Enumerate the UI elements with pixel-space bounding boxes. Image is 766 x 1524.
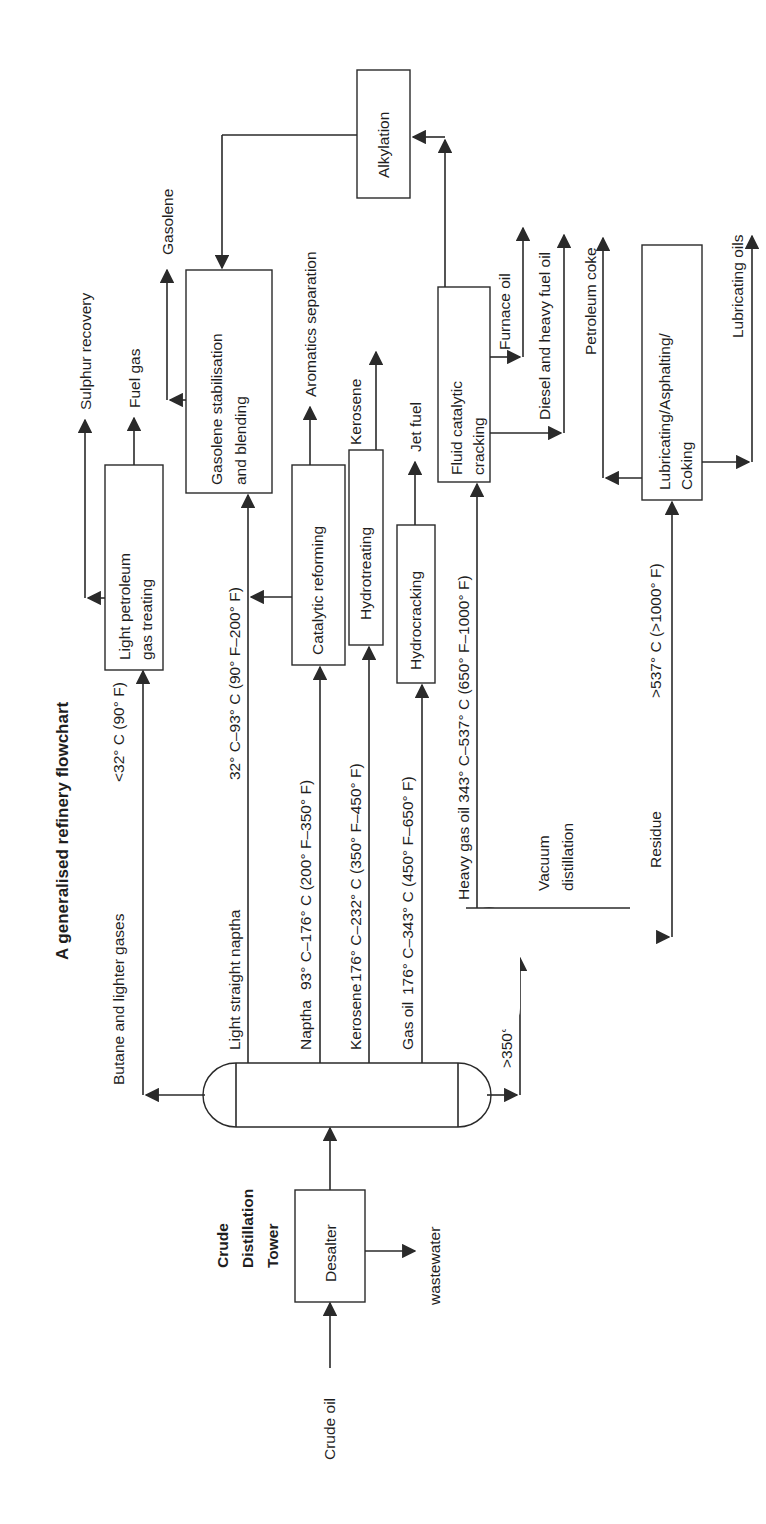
residue-label: Residue: [647, 811, 664, 868]
lpg-treating-label-2: gas treating: [138, 579, 155, 660]
crude-distillation-tower: [203, 1063, 491, 1127]
lpg-treating-label-1: Light petroleum: [116, 553, 133, 660]
hydrotreating-label: Hydrotreating: [357, 527, 374, 620]
fcc-label-2: cracking: [470, 417, 487, 475]
residue-temp-label: >537° C (>1000° F): [647, 563, 664, 698]
petroleum-coke-label: Petroleum coke: [582, 247, 599, 355]
vacuum-vessel: [465, 908, 513, 1010]
diesel-label: Diesel and heavy fuel oil: [536, 252, 553, 420]
catalytic-reforming-label: Catalytic reforming: [309, 526, 326, 655]
desalter-label: Desalter: [322, 1224, 339, 1282]
crude-tower-label-3: Tower: [264, 1224, 281, 1269]
butane-label: Butane and lighter gases: [110, 913, 127, 1085]
lubricating-oils-label: Lubricating oils: [729, 234, 746, 338]
fuel-gas-label: Fuel gas: [126, 348, 143, 408]
kerosene-stream-label: Kerosene: [347, 984, 364, 1050]
jet-fuel-label: Jet fuel: [407, 402, 424, 452]
fcc-label-1: Fluid catalytic: [448, 381, 465, 475]
alkylation-label: Alkylation: [375, 112, 392, 178]
gas-oil-temp-label: 176° C–343° C (450° F–650° F): [399, 776, 416, 995]
lubricating-label-1: Lubricating/Asphalting/: [656, 332, 673, 490]
crude-tower-label-2: Distillation: [239, 1189, 256, 1268]
gas-oil-label: Gas oil: [399, 1002, 416, 1050]
furnace-oil-label: Furnace oil: [496, 273, 513, 350]
crude-tower-label-1: Crude: [214, 1223, 231, 1268]
lubricating-label-2: Coking: [678, 442, 695, 490]
vacuum-distillation-label-2: distillation: [559, 823, 576, 891]
gasolene-stabilisation-label-1: Gasolene stabilisation: [208, 333, 225, 485]
butane-temp-label: <32° C (90° F): [110, 682, 127, 782]
hydrocracking-label: Hydrocracking: [407, 571, 424, 670]
naptha-temp-label: 93° C–176° C (200° F–350° F): [297, 780, 314, 990]
bottoms-temp-label: >350° C: [498, 1011, 515, 1068]
crude-oil-label: Crude oil: [321, 1398, 338, 1460]
gasolene-stabilisation-label-2: and blending: [232, 396, 249, 485]
aromatics-label: Aromatics separation: [302, 251, 319, 397]
light-naptha-label: Light straight naptha: [226, 909, 243, 1050]
wastewater-label: wastewater: [426, 1227, 443, 1306]
sulphur-recovery-label: Sulphur recovery: [77, 293, 94, 410]
naptha-label: Naptha: [297, 1000, 314, 1050]
heavy-gas-oil-label: Heavy gas oil 343° C–537° C (650° F–1000…: [455, 575, 472, 900]
vacuum-distillation-label-1: Vacuum: [535, 835, 552, 891]
kerosene-temp-label: 176° C–232° C (350° F–450° F): [347, 763, 364, 982]
diagram-title: A generalised refinery flowchart: [53, 701, 72, 960]
refinery-flowchart: A generalised refinery flowchart Crude o…: [0, 0, 766, 1524]
kerosene-product-label: Kerosene: [347, 379, 364, 445]
light-naptha-temp-label: 32° C–93° C (90° F–200° F): [226, 587, 243, 780]
gasolene-stabilisation-box: [186, 270, 272, 493]
gasolene-label: Gasolene: [159, 189, 176, 255]
